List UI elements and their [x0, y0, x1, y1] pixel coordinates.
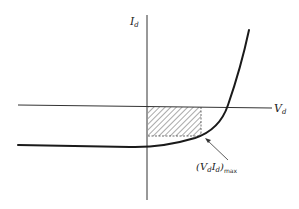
max-point-arrow — [205, 138, 228, 160]
iv-curve — [18, 30, 249, 147]
voltage-axis-label: Vd — [274, 103, 286, 116]
max-power-label: (VdId)max — [196, 162, 237, 174]
diode-iv-diagram — [0, 0, 299, 209]
max-power-rectangle — [148, 107, 201, 136]
current-axis-label: Id — [130, 16, 139, 29]
voltage-axis — [18, 105, 272, 108]
